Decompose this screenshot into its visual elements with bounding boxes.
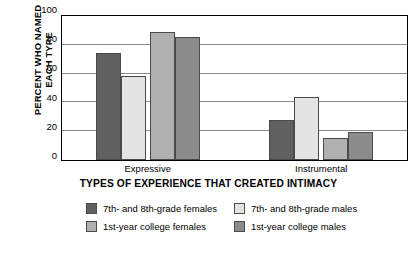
y-axis-tick-20: 20 bbox=[30, 122, 57, 132]
y-axis-tick-40: 40 bbox=[30, 93, 57, 103]
bar-instrumental-series-1 bbox=[269, 120, 294, 160]
bar-expressive-series-1 bbox=[96, 53, 121, 160]
legend-swatch-icon bbox=[234, 221, 245, 232]
y-axis-tick-labels: 100 80 60 40 20 0 bbox=[30, 10, 57, 161]
bar-instrumental-series-4 bbox=[348, 132, 373, 160]
bar-expressive-series-4 bbox=[175, 37, 200, 160]
x-axis-tick-labels: Expressive Instrumental bbox=[61, 163, 408, 177]
y-axis-tick-80: 80 bbox=[30, 34, 57, 44]
x-axis-tick-instrumental: Instrumental bbox=[295, 163, 347, 174]
chart-legend: 7th- and 8th-grade females 7th- and 8th-… bbox=[86, 199, 386, 235]
bar-instrumental-series-2 bbox=[294, 97, 319, 160]
bar-instrumental-series-3 bbox=[323, 138, 348, 160]
x-axis-title: TYPES OF EXPERIENCE THAT CREATED INTIMAC… bbox=[0, 178, 417, 189]
x-axis-tick-expressive: Expressive bbox=[125, 163, 171, 174]
legend-swatch-icon bbox=[86, 203, 97, 214]
bar-chart-figure: PERCENT WHO NAMED EACH TYPE 100 80 60 40… bbox=[0, 0, 417, 253]
y-axis-tick-60: 60 bbox=[30, 64, 57, 74]
legend-item-1: 7th- and 8th-grade females bbox=[86, 203, 234, 214]
y-axis-tick-0: 0 bbox=[30, 151, 57, 161]
legend-item-3: 1st-year college females bbox=[86, 221, 234, 232]
legend-label-1: 7th- and 8th-grade females bbox=[103, 203, 217, 214]
legend-label-3: 1st-year college females bbox=[103, 221, 206, 232]
plot-area bbox=[61, 15, 408, 161]
y-axis-tick-100: 100 bbox=[30, 5, 57, 15]
bar-expressive-series-3 bbox=[150, 32, 175, 160]
bar-series-container bbox=[62, 16, 407, 160]
legend-item-4: 1st-year college males bbox=[234, 221, 386, 232]
legend-swatch-icon bbox=[234, 203, 245, 214]
bar-expressive-series-2 bbox=[121, 76, 146, 160]
legend-item-2: 7th- and 8th-grade males bbox=[234, 203, 386, 214]
legend-swatch-icon bbox=[86, 221, 97, 232]
legend-label-2: 7th- and 8th-grade males bbox=[251, 203, 357, 214]
legend-label-4: 1st-year college males bbox=[251, 221, 346, 232]
